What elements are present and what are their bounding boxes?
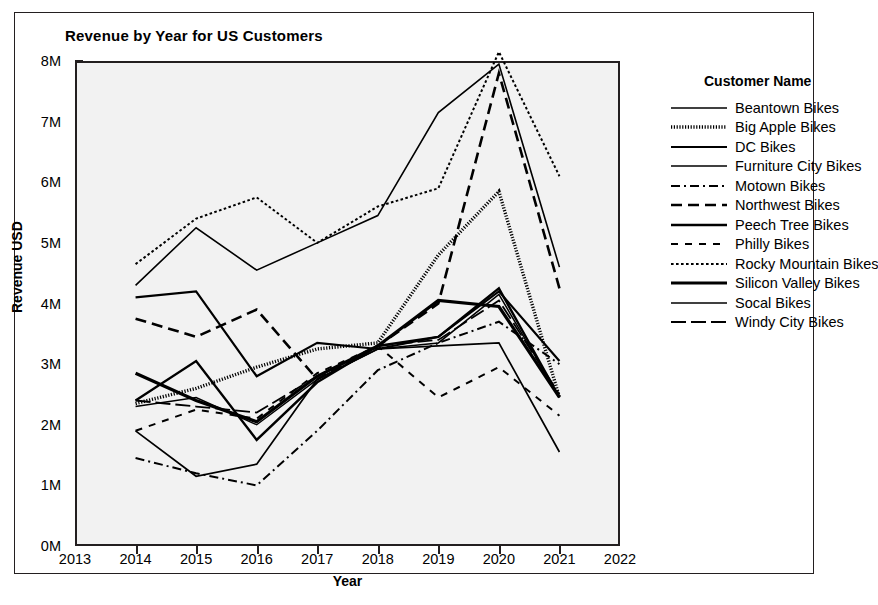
legend-item-label: Furniture City Bikes: [735, 159, 862, 174]
legend-item-label: Windy City Bikes: [735, 315, 844, 330]
legend-line-swatch: [670, 257, 728, 271]
legend-item[interactable]: Furniture City Bikes: [670, 157, 875, 177]
legend-item[interactable]: Big Apple Bikes: [670, 118, 875, 138]
legend-item-label: Motown Bikes: [735, 179, 825, 194]
x-tick-label: 2016: [241, 551, 273, 567]
plot-region: [75, 61, 620, 546]
legend-item[interactable]: Northwest Bikes: [670, 196, 875, 216]
x-tick-label: 2022: [604, 551, 636, 567]
series-line: [136, 300, 560, 412]
legend-item-label: Rocky Mountain Bikes: [735, 257, 878, 272]
legend-title: Customer Name: [704, 73, 875, 89]
legend-item-label: Silicon Valley Bikes: [735, 276, 860, 291]
legend-line-swatch: [670, 140, 728, 154]
x-tick-label: 2017: [301, 551, 333, 567]
y-tick-label: 6M: [41, 174, 61, 190]
series-lines: [75, 61, 620, 546]
legend-line-swatch: [670, 120, 728, 134]
x-tick-label: 2020: [483, 551, 515, 567]
x-tick-label: 2015: [180, 551, 212, 567]
y-tick-label: 7M: [41, 114, 61, 130]
x-tick-label: 2018: [362, 551, 394, 567]
chart-figure: Revenue by Year for US Customers Revenue…: [14, 12, 814, 574]
y-tick-label: 2M: [41, 417, 61, 433]
legend-item-label: DC Bikes: [735, 140, 795, 155]
legend-line-swatch: [670, 179, 728, 193]
legend-line-swatch: [670, 159, 728, 173]
legend-line-swatch: [670, 237, 728, 251]
legend: Customer Name Beantown BikesBig Apple Bi…: [670, 73, 875, 332]
legend-item[interactable]: Peech Tree Bikes: [670, 215, 875, 235]
legend-item[interactable]: Beantown Bikes: [670, 98, 875, 118]
legend-item[interactable]: Silicon Valley Bikes: [670, 274, 875, 294]
y-tick-label: 4M: [41, 296, 61, 312]
legend-line-swatch: [670, 296, 728, 310]
series-line: [136, 64, 560, 285]
y-tick-label: 3M: [41, 356, 61, 372]
x-tick-label: 2021: [543, 551, 575, 567]
series-line: [136, 52, 560, 264]
legend-item[interactable]: Philly Bikes: [670, 235, 875, 255]
series-line: [136, 73, 560, 379]
x-tick-label: 2013: [59, 551, 91, 567]
chart-title: Revenue by Year for US Customers: [65, 27, 323, 44]
legend-item[interactable]: Rocky Mountain Bikes: [670, 254, 875, 274]
legend-item[interactable]: Socal Bikes: [670, 293, 875, 313]
y-tick-label: 8M: [41, 53, 61, 69]
legend-line-swatch: [670, 198, 728, 212]
x-tick-label: 2019: [422, 551, 454, 567]
legend-line-swatch: [670, 315, 728, 329]
legend-items: Beantown BikesBig Apple BikesDC BikesFur…: [670, 98, 875, 332]
legend-item-label: Beantown Bikes: [735, 101, 839, 116]
legend-item-label: Big Apple Bikes: [735, 120, 836, 135]
y-tick-label: 1M: [41, 477, 61, 493]
legend-line-swatch: [670, 101, 728, 115]
x-axis-tick-labels: 2013201420152016201720182019202020212022: [75, 551, 620, 575]
legend-item[interactable]: Windy City Bikes: [670, 313, 875, 333]
legend-item[interactable]: DC Bikes: [670, 137, 875, 157]
legend-item[interactable]: Motown Bikes: [670, 176, 875, 196]
y-tick-label: 5M: [41, 235, 61, 251]
x-axis-title: Year: [75, 573, 620, 589]
y-axis-tick-labels: 0M1M2M3M4M5M6M7M8M: [9, 61, 61, 546]
x-tick-label: 2014: [119, 551, 151, 567]
legend-item-label: Peech Tree Bikes: [735, 218, 849, 233]
legend-item-label: Philly Bikes: [735, 237, 809, 252]
legend-item-label: Socal Bikes: [735, 296, 811, 311]
legend-item-label: Northwest Bikes: [735, 198, 840, 213]
legend-line-swatch: [670, 276, 728, 290]
legend-line-swatch: [670, 218, 728, 232]
